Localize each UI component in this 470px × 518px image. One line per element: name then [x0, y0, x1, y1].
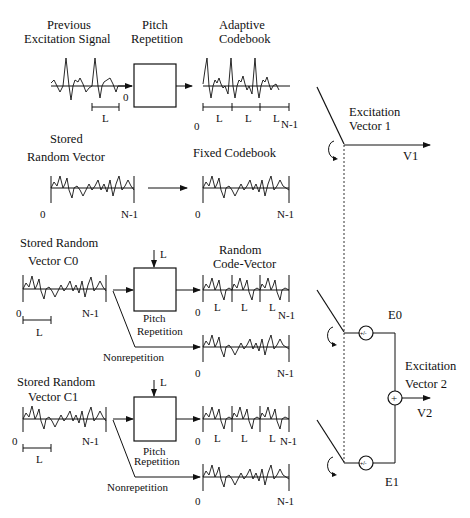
label-zero: 0 [194, 120, 200, 132]
label-E0: E0 [388, 308, 402, 322]
label-L3: L [269, 432, 276, 444]
label-L2: L [241, 432, 248, 444]
c1-waveform [23, 406, 106, 429]
label-repetition: Repetition [134, 455, 180, 467]
label-vector-1: Vector 1 [349, 119, 391, 133]
label-L: L [102, 112, 109, 124]
label-L: L [36, 326, 43, 338]
excitation-vector-2: +/- E0 + Excitation Vector 2 V2 +/- E1 [317, 290, 457, 489]
adaptive-codebook-waveform [203, 58, 279, 98]
label-N-1: N-1 [278, 309, 295, 321]
c0-waveform [23, 276, 106, 299]
label-stored-random: Stored Random [17, 375, 95, 389]
pitch-repetition-block [134, 64, 176, 107]
previous-excitation-waveform [51, 58, 118, 100]
label-plus-minus: +/- [360, 460, 367, 466]
rotate-arrowhead [333, 156, 338, 161]
label-zero: 0 [40, 208, 46, 220]
label-excitation: Excitation [349, 105, 401, 119]
row1-pitch-repetition: Pitch Repetition [131, 18, 192, 107]
label-N-1: N-1 [82, 307, 99, 319]
label-adaptive: Adaptive [219, 18, 265, 32]
label-plus-minus: +/- [360, 330, 367, 336]
label-zero: 0 [123, 91, 129, 103]
label-fixed-codebook: Fixed Codebook [193, 146, 277, 160]
label-V1: V1 [403, 149, 418, 163]
label-L2: L [245, 112, 252, 124]
row1-previous-excitation: Previous Excitation Signal 0 L [24, 18, 132, 124]
row2-stored-random-vector: Stored Random Vector 0 N-1 [27, 132, 187, 220]
pitch-repetition-block-c0 [134, 268, 176, 311]
label-zero: 0 [195, 208, 201, 220]
switch-E1-arm [317, 420, 344, 462]
celp-excitation-diagram: Previous Excitation Signal 0 L Pitch Rep… [0, 0, 470, 518]
label-N-1: N-1 [281, 118, 298, 130]
label-L: L [36, 453, 43, 465]
label-N-1: N-1 [277, 208, 294, 220]
row4-pitch-repetition: L Pitch Repetition [134, 376, 200, 467]
label-E1: E1 [385, 475, 399, 489]
label-excitation-signal: Excitation Signal [24, 32, 111, 46]
row2-fixed-codebook: Fixed Codebook 0 N-1 [193, 146, 294, 220]
label-zero: 0 [195, 435, 201, 447]
label-code-vector: Code-Vector [213, 257, 277, 271]
label-repetition: Repetition [137, 325, 183, 337]
wire-E1-to-sum [373, 405, 395, 463]
wire-E0-to-sum [373, 333, 395, 391]
label-N-1: N-1 [277, 367, 294, 379]
repeated-c1-waveform [203, 407, 289, 429]
label-vector-c1: Vector C1 [28, 390, 78, 404]
nonrep-c0-waveform [203, 335, 289, 357]
label-zero: 0 [12, 435, 18, 447]
label-N-1: N-1 [277, 495, 294, 507]
label-random: Random [219, 243, 262, 257]
label-excitation: Excitation [405, 359, 457, 373]
switch-1-arm [317, 87, 344, 144]
excitation-vector-1: Excitation Vector 1 V1 [317, 87, 430, 163]
label-zero: 0 [195, 306, 201, 318]
row4-outputs: 0 L L L N-1 0 N-1 [195, 406, 297, 507]
label-zero: 0 [16, 307, 22, 319]
label-stored-random: Stored Random [20, 236, 98, 250]
label-codebook: Codebook [219, 32, 271, 46]
row1-adaptive-codebook: Adaptive Codebook 0 L L L N-1 [194, 18, 298, 132]
fixed-codebook-waveform [203, 176, 289, 198]
label-random-vector: Random Vector [27, 150, 106, 164]
label-L1: L [214, 432, 221, 444]
label-nonrepetition: Nonrepetition [103, 351, 165, 363]
label-V2: V2 [417, 406, 432, 420]
label-N-1: N-1 [82, 435, 99, 447]
switch-E0-arm [317, 290, 344, 332]
label-vector-c0: Vector C0 [28, 254, 78, 268]
rotate-icon [328, 327, 335, 344]
pitch-repetition-block-c1 [134, 397, 176, 441]
label-vector-2: Vector 2 [405, 377, 447, 391]
label-N-1: N-1 [121, 208, 138, 220]
row3-random-codevector: Random Code-Vector 0 L L L N-1 0 N-1 [195, 243, 295, 379]
label-pitch: Pitch [143, 312, 166, 324]
label-N-1: N-1 [280, 435, 297, 447]
label-L3: L [269, 301, 276, 313]
rotate-icon [329, 141, 336, 158]
label-L1: L [216, 112, 223, 124]
label-zero: 0 [195, 495, 201, 507]
label-plus: + [391, 392, 397, 404]
rotate-arrowhead [332, 472, 337, 477]
label-previous: Previous [47, 18, 91, 32]
label-nonrepetition: Nonrepetition [107, 481, 169, 493]
stored-random-waveform [51, 176, 134, 198]
rotate-arrowhead [332, 342, 337, 347]
label-L-input: L [160, 248, 167, 260]
label-stored: Stored [50, 132, 83, 146]
label-L2: L [241, 301, 248, 313]
label-zero: 0 [195, 367, 201, 379]
label-L-input: L [160, 376, 167, 388]
label-pitch: Pitch [142, 18, 168, 32]
rotate-icon [328, 457, 335, 474]
row3-pitch-repetition: L Pitch Repetition [134, 248, 200, 337]
nonrep-c1-waveform [203, 465, 289, 487]
label-L3: L [273, 112, 280, 124]
label-repetition: Repetition [131, 32, 184, 46]
repeated-c0-waveform [203, 278, 289, 300]
label-L1: L [214, 301, 221, 313]
